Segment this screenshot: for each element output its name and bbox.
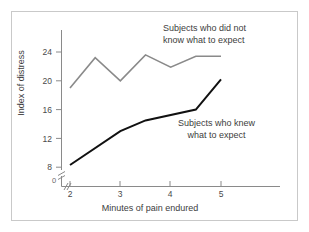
x-axis-label: Minutes of pain endured	[60, 203, 240, 213]
y-axis-break-mark-upper	[58, 172, 65, 176]
x-tick-label-2: 2	[60, 190, 80, 199]
x-tick-label-5: 5	[211, 190, 231, 199]
x-tick-label-4: 4	[160, 190, 180, 199]
y-tick-label-20: 20	[30, 77, 52, 86]
annotation-did-not-know: Subjects who did not know what to expect	[163, 22, 246, 46]
annotation-knew-line1: Subjects who knew	[178, 118, 255, 128]
annotation-did-not-know-line2: know what to expect	[163, 34, 246, 46]
y-tick-label-24: 24	[30, 48, 52, 57]
chart-plot-area	[0, 0, 309, 232]
annotation-did-not-know-line1: Subjects who did not	[163, 23, 246, 33]
chart-figure: 24 20 16 12 8 0 2 3 4 5 Minutes of pain …	[0, 0, 309, 232]
series-line-did-not-know	[70, 55, 221, 88]
y-axis-label: Index of distress	[16, 38, 26, 128]
axis-origin-label: 0	[52, 176, 56, 185]
y-tick-label-8: 8	[30, 163, 52, 172]
annotation-knew-line2: what to expect	[178, 129, 255, 141]
x-tick-label-3: 3	[110, 190, 130, 199]
y-tick-label-12: 12	[30, 135, 52, 144]
y-tick-label-16: 16	[30, 106, 52, 115]
annotation-knew: Subjects who knew what to expect	[178, 117, 255, 141]
